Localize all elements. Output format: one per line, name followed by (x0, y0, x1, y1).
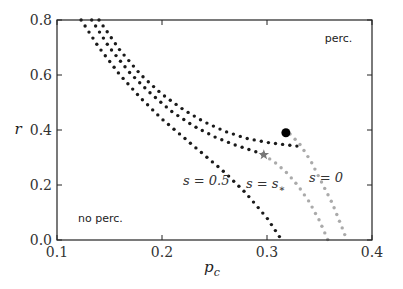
curve-label: s = 0.5 (183, 173, 230, 188)
series-0 (79, 18, 281, 238)
plot-frame (57, 20, 372, 240)
y-axis-label: r (14, 120, 22, 138)
series-2 (262, 153, 329, 241)
y-tick-label: 0.8 (30, 12, 52, 28)
series-1 (90, 18, 264, 156)
y-tick-label: 0.6 (30, 67, 52, 83)
curve-label: s = s∗ (246, 176, 285, 194)
x-tick-label: 0.2 (151, 244, 173, 260)
region-label: perc. (325, 32, 353, 45)
x-tick-label: 0.4 (361, 244, 383, 260)
region-label: no perc. (78, 212, 123, 225)
star-marker (259, 149, 270, 159)
x-axis-label: pc (204, 258, 220, 279)
x-tick-label: 0.3 (256, 244, 278, 260)
y-tick-label: 0.4 (30, 122, 52, 138)
y-tick-label: 0.0 (30, 232, 52, 248)
curve-label: s = 0 (309, 170, 343, 185)
y-tick-label: 0.2 (30, 177, 52, 193)
critical-point-marker (281, 128, 290, 137)
phase-diagram-chart: 0.10.20.30.40.00.20.40.60.8 perc.no perc… (0, 0, 403, 289)
series-layer (79, 18, 346, 241)
